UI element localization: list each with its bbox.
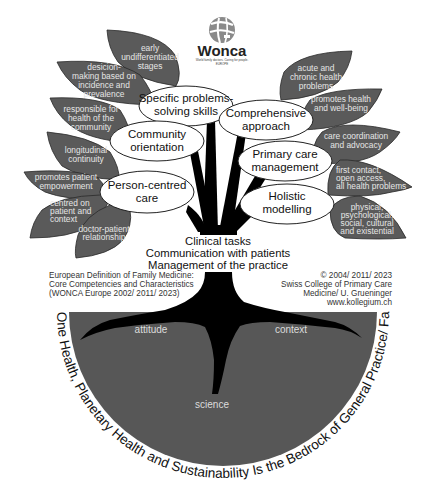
leaf-text: promotes patientempowerment [35,172,98,191]
credits-left: European Definition of Family Medicine: … [49,271,194,298]
competency-holistic-modelling: Holisticmodelling [240,184,334,224]
svg-text:Primary caremanagement: Primary caremanagement [251,148,319,173]
globe-icon [209,17,235,43]
root-label-context: context [275,324,307,335]
svg-text:Communityorientation: Communityorientation [128,128,186,153]
svg-text:Communication with patients: Communication with patients [146,247,291,259]
leaf-text: longitudinalcontinuity [65,145,108,164]
svg-text:www.kollegium.ch: www.kollegium.ch [326,298,393,307]
leaf-first-contact: first contact,open access,all health pro… [328,160,412,196]
competency-person-centred-care: Person-centredcare [100,171,194,213]
leaf-text: responsible forhealth of thecommunity [64,104,119,132]
svg-text:Medicine/ U. Grueninger: Medicine/ U. Grueninger [303,289,392,298]
credits-right: © 2004/ 2011/ 2023 Swiss College of Prim… [281,271,392,307]
svg-text:© 2004/ 2011/ 2023: © 2004/ 2011/ 2023 [321,271,393,280]
family-medicine-tree-diagram: Wonca World family doctors. Caring for p… [0,0,432,501]
clinical-tasks: Clinical tasks Communication with patien… [146,235,291,271]
svg-text:European Definition of Family: European Definition of Family Medicine: [49,271,194,280]
leaf-physical-psychological: physical,psychological,social, culturala… [330,196,406,239]
leaf-text: care coordinationand advocacy [324,131,389,150]
svg-text:(WONCA Europe 2002/ 2011/ 2023: (WONCA Europe 2002/ 2011/ 2023) [49,289,180,298]
logo-region: EUROPE [216,62,229,66]
svg-text:Management of the practice: Management of the practice [148,259,288,271]
competency-community-orientation: Communityorientation [110,121,204,161]
leaf-text: doctor-patientrelationship [78,224,130,242]
logo-wordmark: Wonca [198,42,248,59]
competency-primary-care-management: Primary caremanagement [238,141,332,181]
leaf-promotes-health: promotes healthand well-being [302,89,382,130]
svg-text:Clinical tasks: Clinical tasks [185,235,251,247]
svg-text:Core Competencies and Characte: Core Competencies and Characteristics [49,280,194,289]
svg-text:Holisticmodelling: Holisticmodelling [262,190,311,215]
competency-comprehensive-approach: Comprehensiveapproach [219,100,313,140]
root-label-science: science [195,399,229,410]
svg-text:Swiss College of Primary Care: Swiss College of Primary Care [281,280,392,289]
leaf-text: promotes healthand well-being [311,94,371,113]
wonca-logo: Wonca World family doctors. Caring for p… [196,17,249,66]
root-label-attitude: attitude [135,324,168,335]
